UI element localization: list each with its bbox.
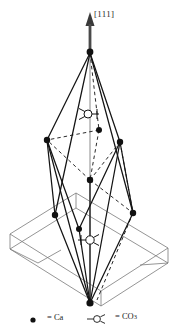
co3-glyph-lower: [78, 235, 99, 246]
ca-atom-lower-left: [52, 212, 58, 218]
calcite-unit-cell-figure: [111] = Ca = CO3: [0, 0, 176, 334]
rhomb-slab: [10, 193, 168, 306]
slab-bevel-a: [10, 249, 38, 263]
co3-lower-arm-ur: [93, 235, 99, 238]
ca-atom-upper-right: [117, 139, 123, 145]
legend-ca-label: = Ca: [47, 312, 63, 322]
ca-atom-inner-low: [76, 226, 82, 232]
co3-upper-arm-ul: [79, 109, 85, 112]
ca-atom-upper-left: [44, 137, 50, 143]
dashed-midcenter-to-upperleft: [47, 140, 90, 180]
slab-bottom-face: [10, 208, 168, 306]
legend: = Ca = CO3: [0, 308, 176, 334]
ca-atom-mid-center: [87, 177, 93, 183]
ca-atom-apex-top: [87, 49, 94, 56]
ca-atom-lower-right: [130, 210, 136, 216]
legend-co3-label: = CO: [115, 311, 134, 321]
co3-glyph-upper: [79, 109, 99, 120]
co3-lower-arm-lr: [93, 243, 99, 246]
dashed-interior-to-midcenter: [90, 130, 99, 180]
direction-index-label: [111]: [94, 9, 114, 19]
axis-111-shaft: [89, 24, 92, 50]
edge-bottom-lowerleft: [55, 215, 90, 303]
edge-bottom-upperright: [90, 142, 120, 303]
ca-atom-apex-bottom: [86, 299, 93, 306]
legend-co3-subscript: 3: [134, 313, 137, 320]
crystal-diagram-svg: [0, 0, 176, 334]
dashed-lowerright-to-bottom: [97, 213, 133, 300]
ca-atom-interior: [96, 127, 102, 133]
legend-item-co3: = CO3: [86, 311, 137, 321]
co3-upper-circle: [84, 110, 92, 118]
slab-bevel-b: [38, 250, 61, 263]
edge-apex-upperleft: [47, 53, 90, 140]
edge-upperright-lowerright: [120, 142, 133, 213]
co3-upper-arm-ll: [79, 117, 85, 120]
legend-item-ca: = Ca: [30, 312, 63, 322]
co3-lower-circle: [86, 236, 94, 244]
edge-bottom-upperleft: [47, 140, 90, 303]
edge-apex-upperright: [90, 53, 120, 142]
